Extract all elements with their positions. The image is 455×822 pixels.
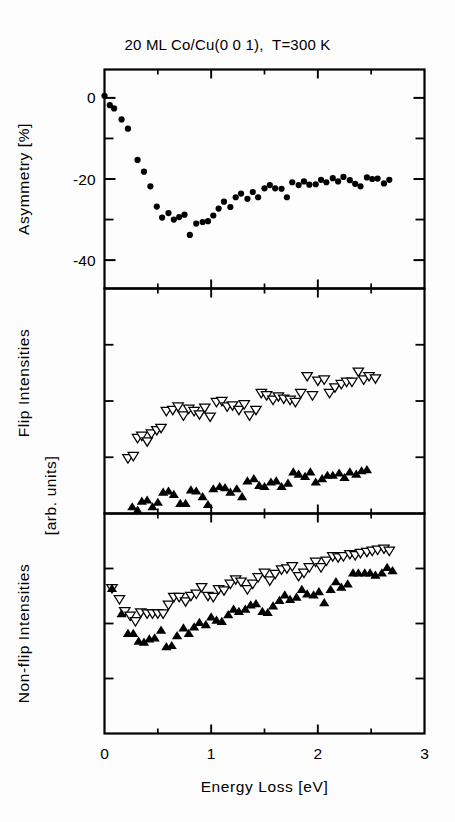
y-axis-label-flip: Flip Intensities [15, 329, 32, 438]
panel-frame-flip_intensities [105, 289, 425, 514]
x-tick-label: 3 [420, 745, 429, 762]
y-axis-label-units: [arb. units] [42, 456, 59, 536]
plot-canvas: 0-20-400123Energy Loss [eV]Asymmetry [%]… [0, 0, 455, 822]
x-tick-label: 0 [100, 745, 109, 762]
x-axis-label: Energy Loss [eV] [201, 778, 329, 795]
y-tick-label: 0 [87, 89, 96, 106]
y-axis-label-asymmetry: Asymmetry [%] [15, 123, 32, 235]
y-tick-label: -20 [73, 171, 96, 188]
x-tick-label: 2 [314, 745, 323, 762]
y-axis-label-nonflip: Non-flip Intensities [15, 564, 32, 704]
series-flip-filled [127, 465, 372, 514]
y-tick-label: -40 [73, 252, 96, 269]
x-tick-label: 1 [207, 745, 216, 762]
series-asymmetry [101, 93, 392, 238]
series-flip-open [123, 368, 381, 463]
series-nonflip-filled [107, 563, 398, 650]
figure-root: 20 ML Co/Cu(0 0 1), T=300 K 0-20-400123E… [0, 0, 455, 822]
